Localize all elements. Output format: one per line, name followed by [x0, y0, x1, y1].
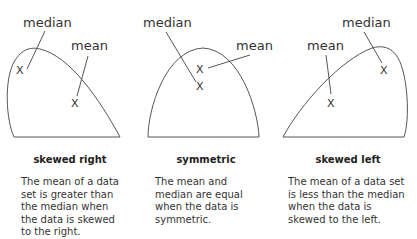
- panel-title-symmetric: symmetric: [140, 154, 272, 165]
- panel-description-skewed-left: The mean of a data set is less than the …: [288, 176, 405, 226]
- mean-label: mean: [236, 38, 273, 53]
- median-marker: X: [380, 64, 388, 77]
- symmetric-shape: median X mean X: [143, 15, 273, 137]
- panel-description-symmetric: The mean and median are equal when the d…: [155, 176, 243, 226]
- median-label: median: [143, 15, 192, 30]
- skewed-left-shape: median X mean X: [283, 15, 407, 137]
- mean-label: mean: [71, 38, 108, 53]
- median-label: median: [23, 15, 72, 30]
- mean-marker: X: [196, 63, 204, 76]
- median-label: median: [342, 15, 391, 30]
- median-marker: X: [196, 80, 204, 93]
- panel-description-skewed-right: The mean of a data set is greater than t…: [21, 176, 119, 239]
- mean-marker: X: [327, 97, 335, 110]
- mean-label: mean: [307, 38, 344, 53]
- median-marker: X: [16, 64, 24, 77]
- panel-title-skewed-right: skewed right: [0, 154, 140, 165]
- skewed-right-shape: median X mean X: [7, 15, 120, 137]
- mean-marker: X: [71, 97, 79, 110]
- panel-title-skewed-left: skewed left: [283, 154, 413, 165]
- distribution-diagram: median X mean X median X mean X median X…: [0, 0, 417, 150]
